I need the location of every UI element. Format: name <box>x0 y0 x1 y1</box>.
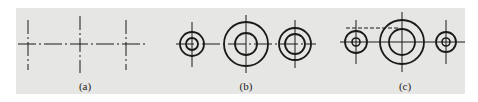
label-b: (b) <box>240 80 253 92</box>
panel-a-drawing <box>18 16 148 73</box>
label-a: (a) <box>79 80 91 92</box>
label-c: (c) <box>399 80 411 92</box>
panel-c-drawing <box>340 12 465 72</box>
panel-b-drawing <box>176 15 316 73</box>
